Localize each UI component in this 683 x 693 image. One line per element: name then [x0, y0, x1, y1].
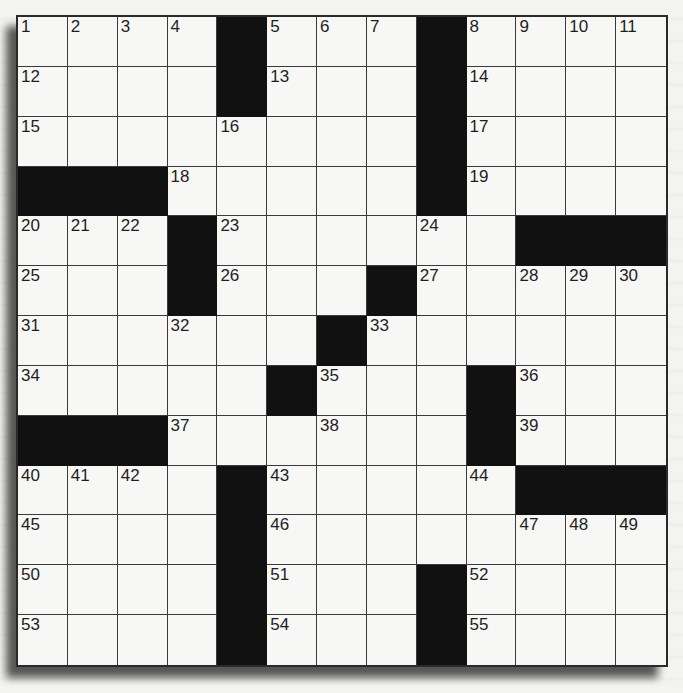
grid-cell[interactable]	[267, 416, 317, 466]
grid-cell[interactable]	[616, 167, 666, 217]
grid-cell[interactable]	[566, 615, 616, 665]
grid-cell[interactable]	[566, 416, 616, 466]
grid-cell[interactable]: 16	[217, 117, 267, 167]
grid-cell[interactable]: 20	[18, 216, 68, 266]
grid-cell[interactable]	[118, 67, 168, 117]
grid-cell[interactable]: 53	[18, 615, 68, 665]
grid-cell[interactable]	[616, 615, 666, 665]
grid-cell[interactable]	[566, 117, 616, 167]
grid-cell[interactable]	[566, 316, 616, 366]
grid-cell[interactable]	[566, 67, 616, 117]
grid-cell[interactable]	[616, 117, 666, 167]
grid-cell[interactable]	[516, 615, 566, 665]
grid-cell[interactable]: 21	[68, 216, 118, 266]
grid-cell[interactable]	[168, 67, 218, 117]
grid-cell[interactable]	[367, 466, 417, 516]
grid-cell[interactable]	[168, 565, 218, 615]
grid-cell[interactable]	[168, 615, 218, 665]
grid-cell[interactable]: 18	[168, 167, 218, 217]
grid-cell[interactable]	[516, 565, 566, 615]
grid-cell[interactable]	[118, 565, 168, 615]
grid-cell[interactable]	[118, 615, 168, 665]
grid-cell[interactable]	[317, 466, 367, 516]
grid-cell[interactable]	[616, 67, 666, 117]
grid-cell[interactable]	[317, 515, 367, 565]
grid-cell[interactable]: 33	[367, 316, 417, 366]
grid-cell[interactable]	[267, 266, 317, 316]
grid-cell[interactable]	[168, 117, 218, 167]
grid-cell[interactable]	[168, 515, 218, 565]
grid-cell[interactable]: 39	[516, 416, 566, 466]
grid-cell[interactable]	[68, 316, 118, 366]
grid-cell[interactable]	[317, 266, 367, 316]
grid-cell[interactable]: 47	[516, 515, 566, 565]
grid-cell[interactable]: 48	[566, 515, 616, 565]
grid-cell[interactable]	[367, 515, 417, 565]
grid-cell[interactable]: 32	[168, 316, 218, 366]
grid-cell[interactable]	[516, 117, 566, 167]
grid-cell[interactable]	[467, 266, 517, 316]
grid-cell[interactable]	[367, 67, 417, 117]
grid-cell[interactable]	[417, 416, 467, 466]
grid-cell[interactable]: 27	[417, 266, 467, 316]
grid-cell[interactable]	[367, 366, 417, 416]
grid-cell[interactable]: 45	[18, 515, 68, 565]
grid-cell[interactable]: 30	[616, 266, 666, 316]
grid-cell[interactable]	[367, 216, 417, 266]
grid-cell[interactable]: 41	[68, 466, 118, 516]
grid-cell[interactable]	[68, 117, 118, 167]
grid-cell[interactable]	[267, 316, 317, 366]
grid-cell[interactable]: 19	[467, 167, 517, 217]
grid-cell[interactable]	[467, 316, 517, 366]
grid-cell[interactable]: 7	[367, 17, 417, 67]
grid-cell[interactable]	[616, 565, 666, 615]
grid-cell[interactable]	[68, 266, 118, 316]
grid-cell[interactable]	[68, 366, 118, 416]
grid-cell[interactable]: 43	[267, 466, 317, 516]
grid-cell[interactable]: 17	[467, 117, 517, 167]
grid-cell[interactable]: 36	[516, 366, 566, 416]
grid-cell[interactable]	[417, 316, 467, 366]
grid-cell[interactable]: 23	[217, 216, 267, 266]
grid-cell[interactable]: 38	[317, 416, 367, 466]
grid-cell[interactable]: 12	[18, 67, 68, 117]
grid-cell[interactable]	[566, 366, 616, 416]
grid-cell[interactable]: 9	[516, 17, 566, 67]
grid-cell[interactable]: 50	[18, 565, 68, 615]
grid-cell[interactable]	[118, 515, 168, 565]
grid-cell[interactable]: 6	[317, 17, 367, 67]
grid-cell[interactable]: 46	[267, 515, 317, 565]
grid-cell[interactable]: 28	[516, 266, 566, 316]
grid-cell[interactable]: 24	[417, 216, 467, 266]
grid-cell[interactable]: 37	[168, 416, 218, 466]
grid-cell[interactable]: 29	[566, 266, 616, 316]
grid-cell[interactable]	[467, 515, 517, 565]
grid-cell[interactable]	[367, 167, 417, 217]
grid-cell[interactable]	[516, 167, 566, 217]
grid-cell[interactable]	[417, 366, 467, 416]
grid-cell[interactable]	[118, 266, 168, 316]
grid-cell[interactable]	[317, 67, 367, 117]
grid-cell[interactable]	[267, 167, 317, 217]
grid-cell[interactable]: 4	[168, 17, 218, 67]
grid-cell[interactable]	[168, 366, 218, 416]
grid-cell[interactable]	[317, 216, 367, 266]
grid-cell[interactable]	[68, 67, 118, 117]
grid-cell[interactable]	[217, 366, 267, 416]
grid-cell[interactable]	[417, 466, 467, 516]
grid-cell[interactable]	[217, 167, 267, 217]
grid-cell[interactable]	[367, 416, 417, 466]
grid-cell[interactable]: 55	[467, 615, 517, 665]
grid-cell[interactable]	[616, 316, 666, 366]
grid-cell[interactable]: 22	[118, 216, 168, 266]
grid-cell[interactable]	[417, 515, 467, 565]
grid-cell[interactable]: 3	[118, 17, 168, 67]
grid-cell[interactable]: 11	[616, 17, 666, 67]
grid-cell[interactable]	[467, 216, 517, 266]
grid-cell[interactable]	[566, 565, 616, 615]
grid-cell[interactable]	[168, 466, 218, 516]
grid-cell[interactable]: 40	[18, 466, 68, 516]
grid-cell[interactable]: 31	[18, 316, 68, 366]
grid-cell[interactable]	[317, 565, 367, 615]
grid-cell[interactable]	[68, 565, 118, 615]
